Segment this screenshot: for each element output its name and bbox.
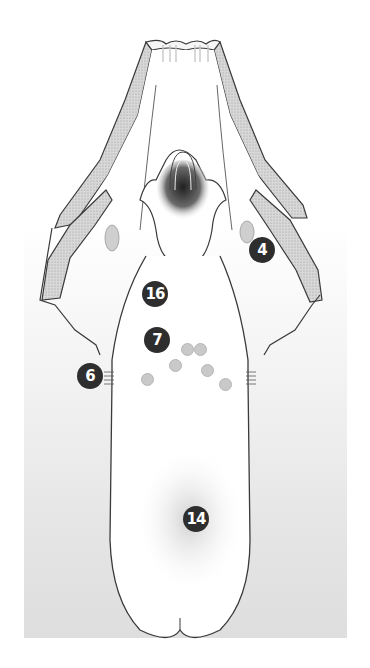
taste-bud-marker (169, 359, 182, 372)
taste-bud-marker (141, 373, 154, 386)
tongue-body (104, 256, 256, 638)
label-6: 6 (77, 363, 103, 389)
taste-bud-marker (194, 343, 207, 356)
label-4: 4 (249, 237, 275, 263)
taste-bud-marker (181, 343, 194, 356)
epiglottis (140, 150, 226, 266)
label-14: 14 (183, 506, 209, 532)
tongue-illustration (0, 0, 370, 668)
label-16: 16 (142, 281, 168, 307)
label-7: 7 (144, 327, 170, 353)
taste-bud-marker (201, 364, 214, 377)
taste-bud-marker (219, 378, 232, 391)
